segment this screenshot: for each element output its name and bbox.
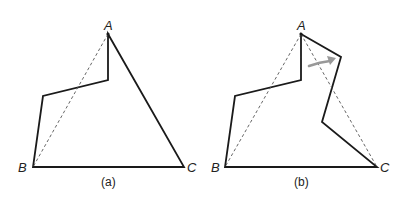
dashed-diagonal-ab: [33, 34, 108, 167]
label-a: A: [103, 18, 113, 33]
label-b: B: [18, 160, 27, 175]
caption-a: (a): [101, 175, 116, 189]
panel-b: A B C (b): [211, 18, 390, 189]
polygon-a: [33, 34, 184, 167]
figure-canvas: A B C (a) A B C (b): [0, 0, 407, 201]
label-a: A: [296, 18, 306, 33]
polygon-b: [225, 34, 377, 167]
panel-a: A B C (a): [18, 18, 197, 189]
label-b: B: [211, 160, 220, 175]
label-c: C: [187, 160, 197, 175]
caption-b: (b): [294, 175, 309, 189]
dashed-diagonal-ac: [301, 34, 377, 167]
label-c: C: [380, 160, 390, 175]
dashed-diagonal-ab: [225, 34, 301, 167]
flip-arrow-icon: [309, 56, 336, 66]
